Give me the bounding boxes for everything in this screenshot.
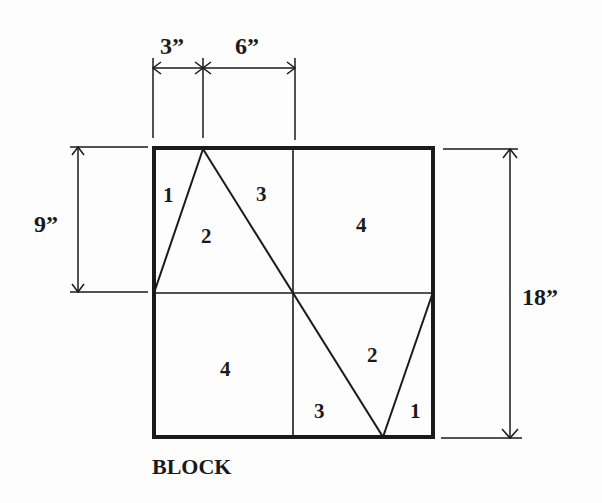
piece-label-3-bottom: 3	[314, 399, 325, 423]
piece-label-4-bottom-left: 4	[220, 357, 231, 381]
dimension-label-9in: 9”	[34, 211, 58, 237]
piece-label-1-bottom: 1	[410, 399, 421, 423]
piece-label-3-top: 3	[256, 182, 267, 206]
piece-label-2-bottom: 2	[367, 343, 378, 367]
piece-label-1-top: 1	[163, 183, 174, 207]
dimension-label-18in: 18”	[522, 284, 558, 310]
piece-label-4-top-right: 4	[356, 213, 367, 237]
left-dimension	[70, 147, 148, 292]
block-title: BLOCK	[152, 454, 231, 479]
dimension-label-6in: 6”	[235, 33, 259, 59]
top-dimension	[153, 58, 295, 140]
right-dimension	[441, 149, 522, 438]
dimension-label-3in: 3”	[160, 33, 184, 59]
piece-label-2-top: 2	[201, 224, 212, 248]
quilt-block-diagram: 3” 6” 9” 18” 1 2 3 4 4 2 3 1 BLOCK	[0, 0, 602, 503]
